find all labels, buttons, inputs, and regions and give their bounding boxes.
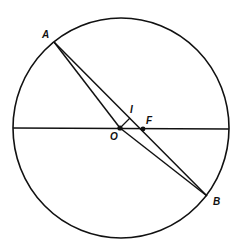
label-f: F	[146, 115, 153, 126]
label-o: O	[110, 131, 118, 142]
label-i: I	[130, 104, 133, 115]
chord-ab	[54, 42, 207, 196]
segment-ob	[120, 128, 207, 196]
segment-ao	[54, 42, 120, 128]
label-b: B	[213, 196, 220, 207]
geometry-diagram: A B O F I	[0, 0, 237, 250]
point-o-dot	[117, 125, 122, 130]
label-a: A	[41, 29, 49, 40]
point-f-dot	[141, 127, 146, 132]
